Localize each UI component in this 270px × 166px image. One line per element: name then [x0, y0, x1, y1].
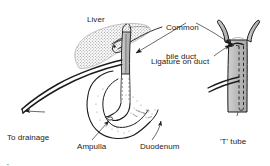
common-bile-duct [121, 24, 131, 103]
label-common-bile-duct-line1: Common [166, 23, 199, 33]
duodenum [87, 71, 158, 139]
ampulla [105, 103, 130, 120]
label-t-tube-line1: 'T' tube [220, 137, 260, 147]
label-to-drainage-bag: To drainage bag [7, 114, 49, 165]
diagram-t-tube-biliary-drainage: Liver Common bile duct Ligature on duct … [0, 0, 270, 165]
label-ligature-on-duct: Ligature on duct [151, 57, 209, 67]
label-liver: Liver [87, 15, 105, 25]
drainage-tube [22, 60, 122, 113]
label-to-drainage-bag-line2: bag [7, 162, 49, 166]
label-to-drainage-bag-line1: To drainage [7, 133, 49, 143]
label-t-tube-in-common-bile-duct: 'T' tube in common bile duct [220, 118, 260, 165]
label-common-bile-duct: Common bile duct [166, 4, 199, 80]
label-duodenum: Duodenum [140, 142, 180, 152]
label-ampulla: Ampulla [77, 142, 106, 152]
